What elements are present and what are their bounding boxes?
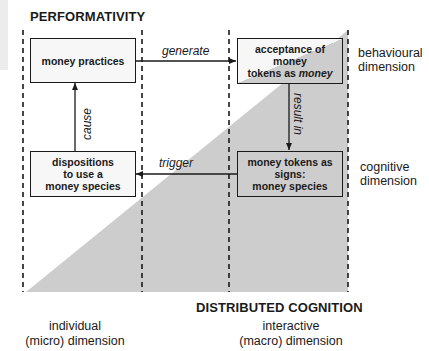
box-dispositions: dispositions to use a money species [30, 151, 136, 197]
label-individual-line-1: individual [20, 319, 130, 334]
label-cognitive-line-2: dimension [360, 174, 417, 188]
edge-label-trigger: trigger [159, 156, 193, 170]
box-money-practices-text: money practices [42, 55, 125, 67]
edge-label-generate: generate [162, 44, 209, 58]
box-money-tokens-line-1: money tokens as [247, 156, 332, 168]
label-behavioural-line-1: behavioural [358, 46, 423, 60]
label-interactive-dimension: interactive (macro) dimension [234, 319, 348, 349]
edge-label-result-in: result in [291, 93, 305, 135]
label-behavioural-line-2: dimension [358, 60, 423, 74]
box-acceptance-line-3: tokens as money [247, 67, 332, 79]
box-money-practices: money practices [30, 38, 136, 83]
box-acceptance-line-1: acceptance of [247, 43, 332, 55]
label-individual-line-2: (micro) dimension [20, 334, 130, 349]
edge-label-cause: cause [80, 108, 94, 140]
box-acceptance-of-money: acceptance of money tokens as money [237, 38, 343, 84]
box-dispositions-line-1: dispositions [45, 156, 120, 168]
label-interactive-line-2: (macro) dimension [234, 334, 348, 349]
box-acceptance-line-2: money [247, 55, 332, 67]
box-money-tokens-line-2: signs: [247, 168, 332, 180]
box-dispositions-line-3: money species [45, 180, 120, 192]
label-individual-dimension: individual (micro) dimension [20, 319, 130, 349]
box-acceptance-line-3-plain: tokens as [247, 67, 298, 79]
box-acceptance-line-3-italic: money [299, 67, 333, 79]
label-behavioural-dimension: behavioural dimension [358, 46, 423, 74]
box-dispositions-line-2: to use a [45, 168, 120, 180]
label-cognitive-dimension: cognitive dimension [360, 160, 417, 188]
heading-distributed-cognition: DISTRIBUTED COGNITION [196, 300, 363, 315]
box-money-tokens-as-signs: money tokens as signs: money species [237, 151, 343, 197]
label-interactive-line-1: interactive [234, 319, 348, 334]
label-cognitive-line-1: cognitive [360, 160, 417, 174]
heading-performativity: PERFORMATIVITY [30, 9, 145, 24]
box-money-tokens-line-3: money species [247, 180, 332, 192]
